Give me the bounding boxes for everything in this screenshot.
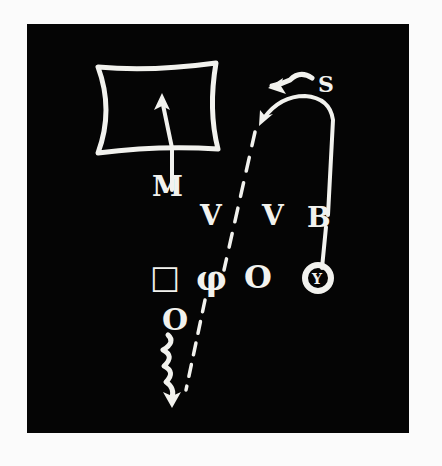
offense-phi-player: φ	[196, 258, 227, 298]
safety-label: S	[318, 71, 334, 97]
end-wheel-route	[264, 96, 333, 215]
offense-square-player: □	[150, 258, 180, 296]
dashed-lane-lower	[186, 300, 205, 390]
play-diagram: M S V V B □ φ O Y O	[0, 0, 442, 466]
back-squiggle-route	[163, 335, 173, 398]
offense-o-player: O	[244, 258, 272, 296]
defender-v-marker: V	[261, 199, 285, 232]
back-player: O	[162, 302, 188, 337]
dashed-pass-lane	[224, 132, 255, 270]
defender-v-marker: V	[199, 199, 223, 232]
offense-y-player: Y	[311, 271, 323, 287]
linebacker-label: M	[152, 170, 183, 203]
